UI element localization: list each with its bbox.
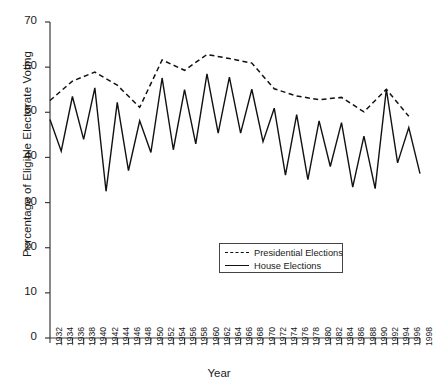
y-axis-tick-label: 20 [7, 240, 37, 252]
legend-label-house: House Elections [254, 261, 321, 272]
y-axis-tick-label: 30 [7, 195, 37, 207]
x-axis-tick-label: 1980 [323, 327, 333, 346]
y-axis-tick-label: 70 [7, 14, 37, 26]
x-axis-tick-label: 1956 [188, 327, 198, 346]
chart-legend: Presidential Elections House Elections [219, 243, 343, 273]
series-line-presidential [50, 55, 409, 117]
y-axis-tick-label: 40 [7, 149, 37, 161]
x-axis-tick-label: 1970 [267, 327, 277, 346]
x-axis-tick-label: 1940 [98, 327, 108, 346]
x-axis-tick-label: 1998 [424, 327, 434, 346]
y-axis-tick-label: 50 [7, 104, 37, 116]
legend-item-presidential: Presidential Elections [225, 247, 337, 259]
x-axis-title: Year [0, 367, 438, 379]
x-axis-tick-label: 1944 [121, 327, 131, 346]
x-axis-tick-label: 1988 [368, 327, 378, 346]
voter-turnout-chart: Percentage of Eligible Electorate Voting… [0, 0, 438, 388]
x-axis-tick-label: 1942 [110, 327, 120, 346]
x-axis-tick-label: 1938 [87, 327, 97, 346]
x-axis-tick-label: 1952 [166, 327, 176, 346]
y-axis-tick-label: 60 [7, 59, 37, 71]
x-axis-tick-label: 1966 [244, 327, 254, 346]
x-axis-tick-label: 1954 [177, 327, 187, 346]
x-axis-tick-label: 1972 [278, 327, 288, 346]
x-axis-tick-label: 1986 [356, 327, 366, 346]
x-axis-tick-label: 1996 [412, 327, 422, 346]
x-axis-tick-label: 1984 [345, 327, 355, 346]
series-line-house [50, 74, 420, 191]
y-axis-tick-label: 0 [7, 330, 37, 342]
x-axis-tick-label: 1948 [143, 327, 153, 346]
x-axis-tick-label: 1978 [311, 327, 321, 346]
x-axis-tick-label: 1976 [300, 327, 310, 346]
x-axis-tick-label: 1960 [211, 327, 221, 346]
dashed-line-swatch-icon [225, 248, 249, 258]
y-axis-tick-label: 10 [7, 285, 37, 297]
x-axis-tick-label: 1992 [390, 327, 400, 346]
x-axis-tick-label: 1932 [54, 327, 64, 346]
x-axis-tick-label: 1958 [199, 327, 209, 346]
x-axis-tick-label: 1950 [155, 327, 165, 346]
x-axis-tick-label: 1982 [334, 327, 344, 346]
x-axis-tick-label: 1936 [76, 327, 86, 346]
legend-label-presidential: Presidential Elections [254, 248, 343, 259]
x-axis-tick-label: 1964 [233, 327, 243, 346]
legend-item-house: House Elections [225, 260, 337, 272]
x-axis-tick-label: 1962 [222, 327, 232, 346]
x-axis-tick-label: 1974 [289, 327, 299, 346]
x-axis-tick-label: 1968 [255, 327, 265, 346]
x-axis-tick-label: 1934 [65, 327, 75, 346]
x-axis-tick-label: 1994 [401, 327, 411, 346]
solid-line-swatch-icon [225, 261, 249, 271]
x-axis-tick-label: 1990 [379, 327, 389, 346]
x-axis-tick-label: 1946 [132, 327, 142, 346]
